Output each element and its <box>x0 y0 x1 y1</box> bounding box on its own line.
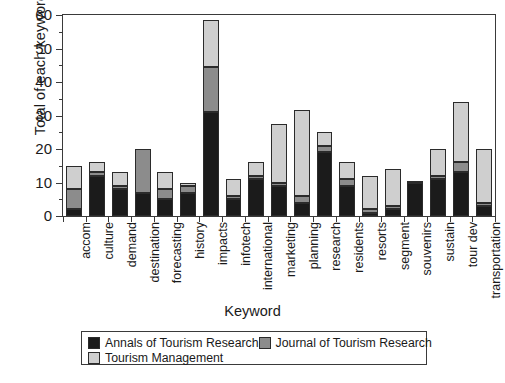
bar-segment <box>248 162 264 175</box>
bar-segment <box>453 102 469 162</box>
bar-tour-dev <box>453 15 469 216</box>
bar-segment <box>476 206 492 216</box>
bar-segment <box>294 196 310 203</box>
bar-segment <box>157 172 173 189</box>
chart-legend: Annals of Tourism Research Journal of To… <box>81 331 427 365</box>
x-axis-tick-label: demand <box>125 222 139 267</box>
legend-item-annals: Annals of Tourism Research <box>88 336 259 350</box>
bar-segment <box>385 206 401 209</box>
bar-research <box>317 15 333 216</box>
bar-segment <box>135 149 151 193</box>
bar-segment <box>385 15 401 216</box>
bar-segment <box>89 162 105 172</box>
bar-infotech <box>226 15 242 216</box>
legend-row-2: Tourism Management <box>88 351 420 364</box>
bar-segment <box>453 162 469 172</box>
y-axis-minor-tick <box>59 99 63 100</box>
bar-segment <box>453 172 469 216</box>
bar-residents <box>339 15 355 216</box>
bar-segment <box>339 179 355 186</box>
bar-segment <box>430 149 446 176</box>
x-axis-tick-label: transportation <box>489 222 503 298</box>
bar-segment <box>226 196 242 199</box>
bar-segment <box>317 152 333 216</box>
bar-destination <box>135 15 151 216</box>
x-axis-tick-label: infotech <box>239 222 253 266</box>
y-axis-tick <box>56 216 63 217</box>
y-axis-tick <box>56 82 63 83</box>
bar-segment <box>112 186 128 189</box>
bar-segment <box>89 176 105 216</box>
x-axis-tick-label: marketing <box>284 222 298 277</box>
legend-item-journal: Journal of Tourism Research <box>259 336 432 350</box>
y-axis-tick-label: 60 <box>6 6 52 23</box>
x-axis-tick-label: impacts <box>216 222 230 265</box>
y-axis-tick <box>56 183 63 184</box>
bar-segment <box>157 199 173 216</box>
bar-marketing <box>271 15 287 216</box>
plot-inner <box>63 15 495 216</box>
bar-transportation <box>476 15 492 216</box>
x-axis-tick-label: culture <box>102 222 116 260</box>
x-axis-tick-label: accom <box>79 222 93 259</box>
bar-segment <box>226 179 242 196</box>
x-axis-tick-label: resorts <box>375 222 389 260</box>
bar-resorts <box>362 15 378 216</box>
bar-segment <box>317 146 333 153</box>
x-axis-tick-label: sustain <box>443 222 457 262</box>
y-axis-tick-label: 10 <box>6 173 52 190</box>
legend-label-annals: Annals of Tourism Research <box>105 336 259 350</box>
bar-segment <box>476 149 492 203</box>
x-axis-title: Keyword <box>0 303 505 319</box>
x-axis-tick-label: residents <box>352 222 366 273</box>
bar-segment <box>112 172 128 185</box>
y-axis-tick <box>56 149 63 150</box>
bar-segment <box>385 209 401 216</box>
bar-segment <box>248 176 264 179</box>
bar-segment <box>112 189 128 216</box>
bar-international <box>248 15 264 216</box>
bar-segment <box>66 189 82 209</box>
bar-segment <box>180 186 196 193</box>
bar-segment <box>203 67 219 112</box>
legend-swatch-annals <box>88 337 100 349</box>
x-axis-tick-label: destination <box>148 222 162 282</box>
y-axis-tick-label: 20 <box>6 140 52 157</box>
bar-sustain <box>430 15 446 216</box>
bar-planning <box>294 15 310 216</box>
bar-segment <box>203 112 219 216</box>
x-axis-tick-label: tour dev <box>466 222 480 267</box>
x-axis-tick-label: forecasting <box>170 222 184 283</box>
bar-segment <box>248 179 264 216</box>
bar-segment <box>271 124 287 183</box>
bar-segment <box>407 181 423 183</box>
bar-segment <box>271 186 287 216</box>
bar-history <box>180 15 196 216</box>
y-axis-tick <box>56 116 63 117</box>
legend-swatch-tourism-management <box>88 352 100 364</box>
y-axis-minor-tick <box>59 132 63 133</box>
bar-souvenirs <box>407 15 423 216</box>
bar-segment <box>157 189 173 199</box>
y-axis-tick <box>56 49 63 50</box>
bar-segment <box>294 110 310 195</box>
bar-segment <box>430 179 446 216</box>
bar-segment <box>339 162 355 179</box>
legend-label-tourism-management: Tourism Management <box>105 351 223 365</box>
bar-segment <box>271 183 287 186</box>
bar-segment <box>385 169 401 206</box>
chart-figure: Total of each keyword Keyword Annals of … <box>0 0 505 383</box>
y-axis-tick <box>56 15 63 16</box>
bar-segment <box>407 183 423 217</box>
bar-segment <box>203 20 219 67</box>
y-axis-tick-label: 30 <box>6 106 52 123</box>
legend-swatch-journal <box>259 337 271 349</box>
y-axis-minor-tick <box>59 166 63 167</box>
x-axis-tick-label: souvenirs <box>420 222 434 276</box>
bar-segment <box>317 132 333 145</box>
x-axis-tick-label: segment <box>398 222 412 270</box>
bar-culture <box>89 15 105 216</box>
y-axis-minor-tick <box>59 65 63 66</box>
legend-row-1: Annals of Tourism Research Journal of To… <box>88 336 420 349</box>
y-axis-minor-tick <box>59 32 63 33</box>
